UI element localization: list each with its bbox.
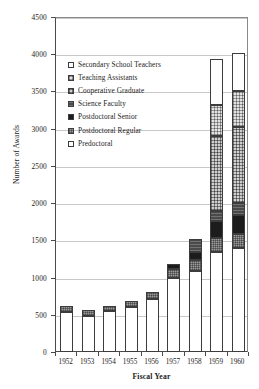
legend-label: Postdoctoral Regular bbox=[78, 127, 141, 135]
y-tick-label: 3500 bbox=[31, 87, 47, 96]
legend-swatch-icon bbox=[68, 128, 74, 134]
bar-segment bbox=[125, 301, 138, 307]
plot-area: Secondary School TeachersTeaching Assist… bbox=[55, 17, 248, 352]
legend-swatch-icon bbox=[68, 75, 74, 81]
gridline bbox=[56, 55, 247, 56]
bar-segment bbox=[82, 316, 95, 352]
x-axis: 195219531954195519561957195819591960 Fis… bbox=[55, 352, 248, 389]
legend-item: Teaching Assistants bbox=[68, 71, 190, 84]
bar-segment bbox=[189, 252, 202, 261]
bar-segment bbox=[232, 203, 245, 215]
bar-segment bbox=[189, 271, 202, 352]
legend-item: Cooperative Graduate bbox=[68, 84, 190, 97]
x-tick-mark bbox=[184, 352, 185, 356]
y-tick-label: 4500 bbox=[31, 13, 47, 22]
y-axis-title: Number of Awards bbox=[12, 95, 21, 215]
bar-1959 bbox=[210, 58, 223, 351]
legend-label: Postdoctoral Senior bbox=[78, 113, 137, 121]
legend-swatch-icon bbox=[68, 114, 74, 120]
x-tick-mark bbox=[98, 352, 99, 356]
bar-segment bbox=[189, 260, 202, 270]
y-tick-label: 3000 bbox=[31, 124, 47, 133]
x-tick-label: 1960 bbox=[230, 358, 244, 366]
bar-segment bbox=[210, 105, 223, 136]
x-tick-label: 1959 bbox=[209, 358, 223, 366]
bar-1957 bbox=[167, 263, 180, 351]
bar-1954 bbox=[103, 305, 116, 351]
x-tick-mark bbox=[119, 352, 120, 356]
x-tick-label: 1958 bbox=[187, 358, 201, 366]
x-tick-label: 1954 bbox=[101, 358, 115, 366]
x-tick-label: 1953 bbox=[80, 358, 94, 366]
y-tick-label: 2500 bbox=[31, 161, 47, 170]
legend-label: Cooperative Graduate bbox=[78, 87, 144, 95]
bar-segment bbox=[210, 252, 223, 353]
y-axis: 050010001500200025003000350040004500 Num… bbox=[0, 0, 55, 389]
legend-item: Science Faculty bbox=[68, 98, 190, 111]
y-tick-label: 500 bbox=[35, 310, 47, 319]
y-tick-label: 0 bbox=[43, 348, 47, 357]
bar-segment bbox=[210, 221, 223, 238]
bar-segment bbox=[232, 234, 245, 248]
x-tick-label: 1955 bbox=[123, 358, 137, 366]
bar-segment bbox=[232, 248, 245, 352]
bar-segment bbox=[189, 239, 202, 252]
bar-segment bbox=[167, 264, 180, 268]
bar-segment bbox=[103, 306, 116, 312]
x-tick-mark bbox=[248, 352, 249, 356]
legend-item: Postdoctoral Regular bbox=[68, 124, 190, 137]
legend-swatch-icon bbox=[68, 101, 74, 107]
legend-swatch-icon bbox=[68, 62, 74, 68]
bar-segment bbox=[210, 136, 223, 210]
y-tick-label: 4000 bbox=[31, 50, 47, 59]
legend-label: Secondary School Teachers bbox=[78, 61, 161, 69]
x-tick-label: 1957 bbox=[166, 358, 180, 366]
bar-1955 bbox=[125, 300, 138, 351]
bar-segment bbox=[60, 306, 73, 312]
bar-1952 bbox=[60, 305, 73, 351]
bar-segment bbox=[125, 307, 138, 352]
x-tick-mark bbox=[76, 352, 77, 356]
x-tick-mark bbox=[227, 352, 228, 356]
bar-segment bbox=[146, 299, 159, 352]
bar-segment bbox=[82, 310, 95, 315]
bar-segment bbox=[210, 211, 223, 221]
bar-segment bbox=[232, 215, 245, 234]
bar-segment bbox=[232, 127, 245, 203]
x-tick-mark bbox=[55, 352, 56, 356]
bar-segment bbox=[103, 311, 116, 352]
x-tick-label: 1952 bbox=[59, 358, 73, 366]
x-tick-mark bbox=[141, 352, 142, 356]
bar-segment bbox=[210, 238, 223, 251]
x-axis-title: Fiscal Year bbox=[55, 372, 248, 381]
x-tick-label: 1956 bbox=[144, 358, 158, 366]
x-tick-mark bbox=[162, 352, 163, 356]
bar-segment bbox=[232, 91, 245, 127]
legend-label: Science Faculty bbox=[78, 100, 126, 108]
bar-segment bbox=[210, 59, 223, 105]
legend-item: Secondary School Teachers bbox=[68, 58, 190, 71]
y-tick-label: 1000 bbox=[31, 273, 47, 282]
bar-segment bbox=[167, 269, 180, 278]
legend-item: Predoctoral bbox=[68, 137, 190, 150]
y-tick-label: 1500 bbox=[31, 236, 47, 245]
bar-segment bbox=[232, 53, 245, 91]
chart-legend: Secondary School TeachersTeaching Assist… bbox=[68, 58, 190, 150]
chart-root: 050010001500200025003000350040004500 Num… bbox=[0, 0, 259, 389]
legend-swatch-icon bbox=[68, 88, 74, 94]
legend-item: Postdoctoral Senior bbox=[68, 111, 190, 124]
gridline bbox=[56, 18, 247, 19]
bar-segment bbox=[146, 292, 159, 299]
bar-segment bbox=[60, 312, 73, 352]
legend-swatch-icon bbox=[68, 141, 74, 147]
x-tick-mark bbox=[205, 352, 206, 356]
bar-1953 bbox=[82, 309, 95, 351]
bar-1958 bbox=[189, 238, 202, 351]
legend-label: Teaching Assistants bbox=[78, 74, 138, 82]
y-tick-label: 2000 bbox=[31, 199, 47, 208]
bar-1956 bbox=[146, 291, 159, 351]
legend-label: Predoctoral bbox=[78, 140, 113, 148]
bar-1960 bbox=[232, 52, 245, 351]
bar-segment bbox=[167, 278, 180, 352]
